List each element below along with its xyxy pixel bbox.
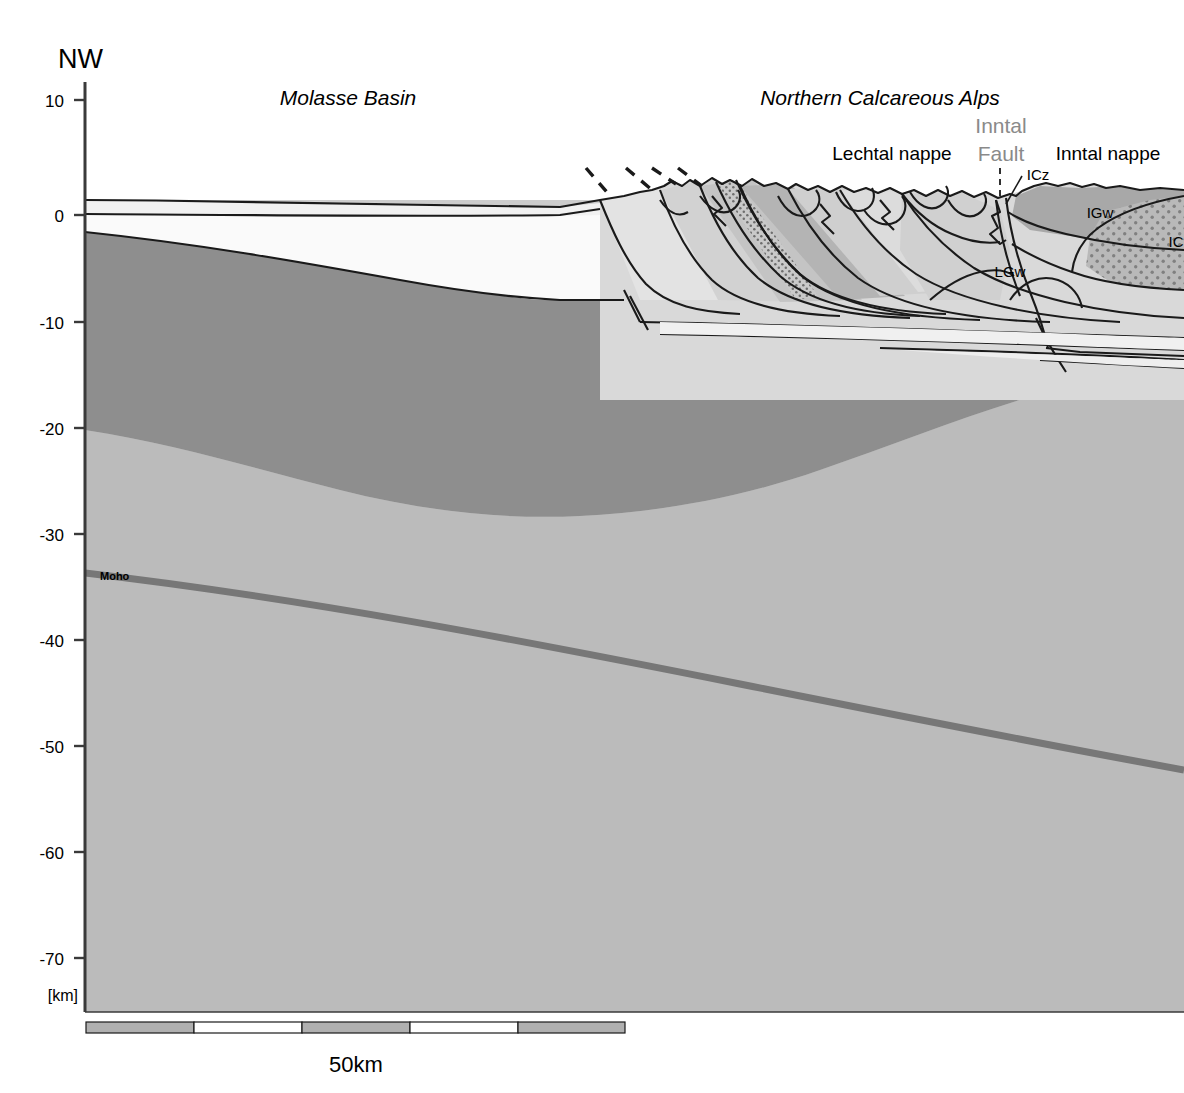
unit-label-lgw: LGw [995, 263, 1026, 280]
unit-label-icz: ICz [1027, 166, 1050, 183]
y-tick-label--30: -30 [39, 526, 64, 545]
y-tick-label-10: 10 [45, 92, 64, 111]
y-tick-label--20: -20 [39, 420, 64, 439]
nappe-label-inntal: Inntal nappe [1056, 143, 1161, 164]
y-tick-label--40: -40 [39, 632, 64, 651]
inntal-fault-label-line2: Fault [978, 142, 1025, 165]
unit-label-ic: IC [1169, 233, 1184, 250]
scale-bar-segment-3 [302, 1022, 410, 1033]
scale-bar-segment-1 [86, 1022, 194, 1033]
y-axis-unit-label: [km] [48, 987, 78, 1004]
region-label-molasse-basin: Molasse Basin [280, 86, 417, 109]
y-tick-label--10: -10 [39, 314, 64, 333]
annotation-label-moho: Moho [100, 570, 130, 582]
scale-bar-segment-5 [518, 1022, 625, 1033]
region-label-northern-calcareous-alps: Northern Calcareous Alps [760, 86, 1000, 109]
y-tick-label--50: -50 [39, 738, 64, 757]
scale-bar-label: 50km [329, 1052, 383, 1077]
cross-section-canvas: 10 0 -10 -20 -30 -40 -50 -60 -70 [km] NW… [0, 0, 1184, 1093]
scale-bar-segment-2 [194, 1022, 302, 1033]
scale-bar-segment-4 [410, 1022, 518, 1033]
y-tick-label--70: -70 [39, 950, 64, 969]
unit-label-igw: IGw [1087, 204, 1114, 221]
orientation-label-nw: NW [58, 44, 103, 74]
inntal-fault-label-line1: Inntal [975, 114, 1026, 137]
geological-cross-section-figure: 10 0 -10 -20 -30 -40 -50 -60 -70 [km] NW… [0, 0, 1184, 1093]
y-tick-label--60: -60 [39, 844, 64, 863]
y-tick-label-0: 0 [55, 207, 64, 226]
nappe-label-lechtal: Lechtal nappe [832, 143, 951, 164]
